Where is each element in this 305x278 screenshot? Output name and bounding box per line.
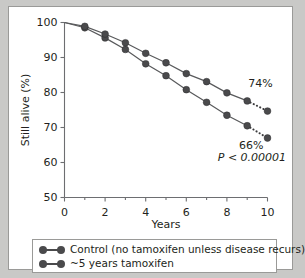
y-tick-label: 80: [44, 86, 58, 99]
legend-label-tamoxifen: ~5 years tamoxifen: [70, 258, 174, 269]
series-line-solid: [65, 23, 248, 101]
legend-marker-icon: [39, 258, 65, 269]
y-tick-label: 60: [44, 156, 58, 169]
legend-item-control: Control (no tamoxifen unless disease rec…: [39, 243, 276, 256]
x-tick-label: 4: [142, 206, 149, 219]
x-tick-label: 2: [102, 206, 109, 219]
x-tick-label: 0: [61, 206, 68, 219]
y-tick-label: 90: [44, 51, 58, 64]
plot-area: 5060708090100 0246810 74%66%P < 0.00001 …: [9, 7, 294, 239]
survival-chart: 5060708090100 0246810 74%66%P < 0.00001 …: [9, 7, 294, 239]
data-point-marker: [142, 60, 149, 67]
y-tick-label: 70: [44, 121, 58, 134]
data-point-marker: [244, 122, 251, 129]
y-axis-ticks: [61, 23, 65, 198]
data-point-marker: [224, 89, 231, 96]
y-axis-title: Still alive (%): [19, 74, 32, 147]
legend-label-control: Control (no tamoxifen unless disease rec…: [70, 244, 302, 255]
data-point-marker: [122, 46, 129, 53]
data-point-marker: [163, 59, 170, 66]
y-tick-label: 100: [37, 16, 58, 29]
data-point-marker: [264, 108, 271, 115]
data-point-marker: [163, 72, 170, 79]
legend-marker-icon: [39, 244, 65, 255]
figure-panel: 5060708090100 0246810 74%66%P < 0.00001 …: [8, 6, 293, 270]
x-axis-tick-labels: 0246810: [61, 206, 275, 219]
data-point-marker: [142, 50, 149, 57]
data-point-marker: [122, 39, 129, 46]
x-tick-label: 6: [183, 206, 190, 219]
x-axis-ticks: [65, 198, 268, 202]
series-line-solid: [65, 23, 248, 126]
data-point-marker: [81, 23, 88, 30]
chart-annotation-label: 66%: [239, 139, 263, 152]
x-axis-title: Years: [150, 218, 180, 231]
chart-annotation-label: 74%: [248, 77, 272, 90]
data-point-marker: [102, 31, 109, 38]
legend-item-tamoxifen: ~5 years tamoxifen: [39, 257, 276, 270]
data-point-marker: [203, 99, 210, 106]
data-point-marker: [183, 86, 190, 93]
y-axis-tick-labels: 5060708090100: [37, 16, 58, 204]
data-point-marker: [224, 112, 231, 119]
y-tick-label: 50: [44, 191, 58, 204]
chart-legend: Control (no tamoxifen unless disease rec…: [32, 239, 277, 273]
data-point-marker: [244, 98, 251, 105]
x-tick-label: 10: [261, 206, 275, 219]
x-tick-label: 8: [223, 206, 230, 219]
data-point-marker: [203, 78, 210, 85]
data-point-marker: [264, 135, 271, 142]
data-point-marker: [183, 70, 190, 77]
chart-annotation-label: P < 0.00001: [218, 151, 286, 164]
series-paths: [65, 23, 268, 139]
